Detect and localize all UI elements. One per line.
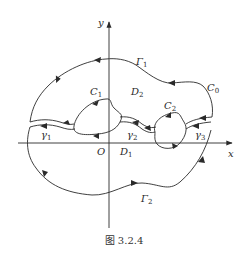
c0-label: C0 (207, 83, 219, 95)
arrow-outer-upper-right (168, 80, 175, 86)
gamma1-outer-upper-arc (30, 59, 213, 122)
cut-gamma1-lower (30, 125, 75, 130)
c1-inner-boundary (74, 99, 122, 135)
y-axis-label: y (98, 18, 104, 28)
figure-caption: 图 3.2.4 (0, 232, 248, 247)
gamma1-label: Γ1 (136, 57, 147, 69)
arrow-c2-bottom (172, 143, 178, 149)
x-axis-label: x (228, 149, 234, 159)
cut-gamma3-label: γ3 (195, 130, 205, 142)
origin-label: O (97, 147, 105, 157)
c2-label: C2 (164, 101, 176, 113)
region-diagram (0, 0, 248, 253)
arrow-gamma1-top (94, 57, 101, 63)
arrow-gamma1-upper (63, 120, 70, 125)
cut-gamma2-label: γ2 (127, 130, 137, 142)
d2-label: D2 (131, 87, 144, 99)
cut-gamma3-upper (186, 117, 212, 124)
gamma2-label: Γ2 (141, 194, 152, 206)
gamma2-outer-lower-arc (28, 127, 211, 195)
cut-gamma1-label: γ1 (41, 130, 51, 142)
arrow-gamma3-upper (199, 115, 206, 121)
c1-label: C1 (90, 87, 102, 99)
d1-label: D1 (120, 147, 133, 159)
arrow-outer-lower-mid (131, 180, 138, 186)
